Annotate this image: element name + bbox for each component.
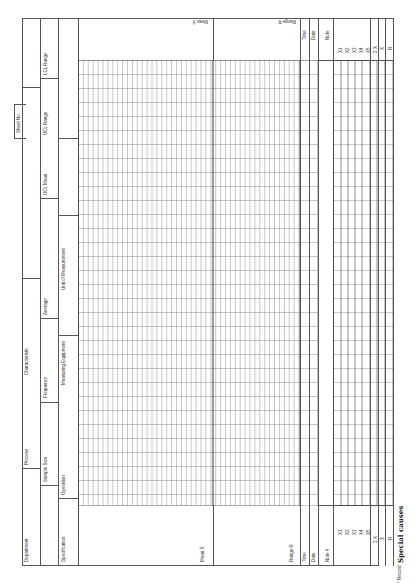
- x4-label: X4: [359, 529, 364, 535]
- note-label-top: Note: [325, 30, 330, 40]
- footnote: * Record: [397, 565, 402, 583]
- x5-label-top: X5: [366, 47, 371, 53]
- control-chart-grid[interactable]: [78, 60, 300, 506]
- r-label: R: [388, 537, 393, 540]
- department-label: Department: [24, 538, 29, 562]
- x-bar-label-top: X̄: [380, 47, 385, 50]
- x3-label: X3: [352, 529, 357, 535]
- process-label: Process: [24, 449, 29, 465]
- x1-label: X1: [338, 529, 343, 535]
- x-bar-label: X̄: [380, 537, 385, 540]
- x2-label: X2: [345, 529, 350, 535]
- x4-label-top: X4: [359, 47, 364, 53]
- sum-x-label: Σ X: [373, 536, 378, 543]
- r-label-top: R: [388, 47, 393, 50]
- lcl-range-label: LCL Range: [43, 52, 48, 75]
- x5-label: X5: [366, 529, 371, 535]
- handwritten-note: Special causes: [396, 506, 405, 563]
- unit-of-measurement-label: Unit of Measurement: [61, 248, 66, 290]
- sheet-no-label: Sheet No.: [16, 113, 21, 133]
- mean-label-bottom: Mean X̄: [200, 546, 205, 562]
- x3-label-top: X3: [352, 47, 357, 53]
- average-label: Average: [43, 298, 48, 315]
- date-label-top: Date: [311, 30, 316, 40]
- note-hash-label: Note #: [325, 549, 330, 562]
- sum-x-label-top: Σ X: [373, 46, 378, 53]
- time-label: Time: [302, 552, 307, 562]
- range-label-bottom: Range R: [289, 544, 294, 562]
- measurements-grid[interactable]: [333, 60, 393, 506]
- x1-label-top: X1: [338, 47, 343, 53]
- specification-label: Specification: [61, 536, 66, 562]
- date-label: Date: [311, 552, 316, 562]
- frequency-label: Frequency: [43, 377, 48, 398]
- ucl-mean-label: UCL Mean: [43, 174, 48, 195]
- mean-label-top: Mean X̄: [192, 19, 208, 24]
- operation-label: Operation: [61, 475, 66, 495]
- ucl-range-label: UCL Range: [43, 112, 48, 135]
- range-label-top: Range R: [278, 19, 296, 24]
- time-date-grid[interactable]: [300, 60, 318, 506]
- characteristic-label: Characteristic: [24, 347, 29, 375]
- time-label-top: Time: [302, 30, 307, 40]
- sample-size-label: Sample Size: [43, 457, 48, 482]
- x2-label-top: X2: [345, 47, 350, 53]
- measuring-equipment-label: Measuring Equipment: [61, 341, 66, 385]
